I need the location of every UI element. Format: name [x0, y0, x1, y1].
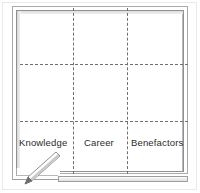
- grid-line-horizontal-2: [20, 121, 188, 122]
- pencil-icon: [18, 150, 64, 186]
- cell-label-knowledge: Knowledge: [19, 136, 67, 150]
- grid-line-vertical-2: [127, 8, 128, 174]
- illustration-canvas: Knowledge Career Benefactors: [0, 0, 200, 193]
- shelf: [58, 176, 188, 182]
- cell-label-career: Career: [84, 136, 114, 150]
- grid-line-horizontal-1: [20, 64, 188, 65]
- grid-line-vertical-1: [73, 8, 74, 174]
- cell-label-benefactors: Benefactors: [131, 136, 183, 150]
